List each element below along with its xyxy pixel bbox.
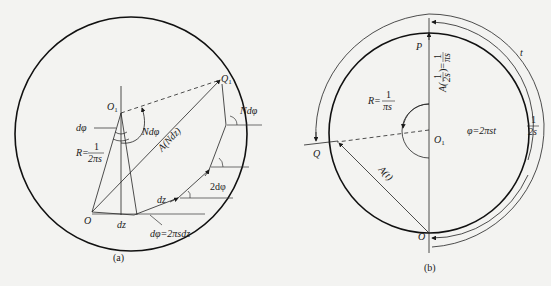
caption-a: (a) (113, 252, 124, 264)
label-ndphi-right: Ndφ (239, 105, 258, 116)
figure-a: Q1 O1 Ndφ dφ Ndφ R= 1 2πs A(Ndz) 2dφ dz … (15, 17, 262, 264)
diagram-canvas: Q1 O1 Ndφ dφ Ndφ R= 1 2πs A(Ndz) 2dφ dz … (0, 0, 551, 286)
radius-to-dz (121, 113, 137, 215)
angle-arc-3 (230, 116, 237, 125)
tangent-q (304, 141, 338, 145)
label-r-b-num: 1 (386, 89, 391, 100)
dphi-eq-leader (150, 215, 162, 225)
svg-text:A(: A( (437, 82, 449, 93)
label-dz-arc: dz (157, 194, 166, 205)
label-o-a: O (84, 215, 91, 226)
label-dz-bottom: dz (117, 219, 126, 230)
label-2dphi: 2dφ (210, 181, 226, 192)
label-r-b-den: πs (383, 101, 392, 112)
figure-b: P A( 1 2s )= 1 πs R= 1 πs φ=2πst O1 Q A(… (304, 14, 544, 274)
label-dphi: dφ (76, 122, 87, 133)
label-ndphi-center: Ndφ (141, 126, 160, 137)
label-o1-a: O1 (107, 101, 118, 114)
arc-half-s-1 (432, 175, 528, 238)
label-q: Q (313, 148, 321, 159)
dashed-o1-q (337, 130, 429, 142)
label-p: P (415, 41, 422, 52)
label-o1-b: O1 (434, 134, 445, 147)
angle-arc-1 (188, 191, 190, 198)
label-a-half: A( 1 2s )= 1 πs (432, 52, 452, 93)
dashed-o1-q1 (121, 80, 220, 113)
angle-arc-2 (219, 158, 223, 167)
svg-text:)=: )= (437, 63, 449, 72)
label-half-s-num: 1 (531, 114, 536, 125)
label-t: t (520, 47, 523, 58)
chain-arrow-1 (170, 198, 178, 202)
circle-a (15, 17, 247, 251)
outer-arc-left (316, 14, 544, 247)
label-half-s-den: 2s (528, 126, 537, 137)
caption-b: (b) (424, 262, 436, 274)
svg-text:πs: πs (441, 53, 452, 62)
label-r-a: R= (75, 147, 89, 158)
label-r-b: R= (367, 95, 381, 106)
label-phi-eq: φ=2πst (467, 125, 496, 136)
phi-arc (402, 104, 429, 158)
label-a-t: A(t) (375, 163, 396, 184)
chord-a-t (339, 143, 429, 233)
label-r-a-den: 2πs (88, 153, 102, 164)
svg-text:2s: 2s (441, 73, 452, 82)
label-o-b: O (418, 231, 425, 242)
label-r-a-num: 1 (94, 141, 99, 152)
label-dphi-eq: dφ=2πsdz (150, 228, 190, 239)
